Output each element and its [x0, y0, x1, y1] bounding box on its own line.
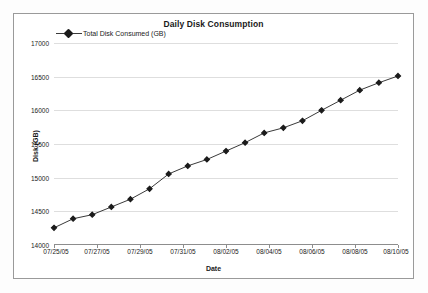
legend-series-symbol — [56, 29, 82, 38]
y-axis-tick-label: 14500 — [31, 208, 49, 215]
legend-series-label: Total Disk Consumed (GB) — [82, 30, 166, 37]
chart-frame: Daily Disk Consumption Total Disk Consum… — [13, 13, 414, 279]
data-point-marker — [109, 204, 114, 209]
x-axis-tick-label: 08/02/05 — [213, 248, 238, 255]
y-axis-tick-label: 16500 — [31, 73, 49, 80]
y-axis-tick-label: 15500 — [31, 141, 49, 148]
data-point-marker — [376, 80, 381, 85]
data-point-marker — [223, 148, 228, 153]
y-axis-tick-label: 15000 — [31, 174, 49, 181]
chart-legend: Total Disk Consumed (GB) — [56, 28, 166, 39]
x-axis-tick-label: 07/27/05 — [84, 248, 109, 255]
x-axis-tick-label: 08/04/05 — [256, 248, 281, 255]
data-point-marker — [128, 197, 133, 202]
diamond-marker-icon — [64, 29, 74, 39]
data-point-marker — [300, 118, 305, 123]
x-axis-title: Date — [14, 265, 413, 272]
x-axis-tick-label: 07/31/05 — [170, 248, 195, 255]
data-point-marker — [51, 225, 56, 230]
x-axis-tick-label: 07/29/05 — [127, 248, 152, 255]
data-point-marker — [357, 88, 362, 93]
data-point-marker — [395, 73, 400, 78]
data-point-marker — [281, 125, 286, 130]
data-point-marker — [243, 140, 248, 145]
x-axis-tick-label: 08/10/05 — [383, 248, 408, 255]
data-point-marker — [185, 163, 190, 168]
data-point-marker — [262, 130, 267, 135]
y-axis-tick-label: 16000 — [31, 107, 49, 114]
x-axis-tick-label: 08/06/05 — [299, 248, 324, 255]
y-axis-tick-label: 17000 — [31, 40, 49, 47]
series-total-disk-consumed — [54, 43, 398, 245]
data-point-marker — [90, 212, 95, 217]
data-point-marker — [71, 216, 76, 221]
data-point-marker — [338, 98, 343, 103]
plot-area: 14000145001500015500160001650017000 07/2… — [54, 43, 398, 245]
x-axis-tick-label: 07/25/05 — [43, 248, 68, 255]
legend-line-right-segment — [73, 33, 82, 34]
data-point-marker — [319, 108, 324, 113]
screenshot-root: Daily Disk Consumption Total Disk Consum… — [0, 0, 428, 293]
data-point-marker — [204, 157, 209, 162]
x-axis-tick-label: 08/08/05 — [342, 248, 367, 255]
